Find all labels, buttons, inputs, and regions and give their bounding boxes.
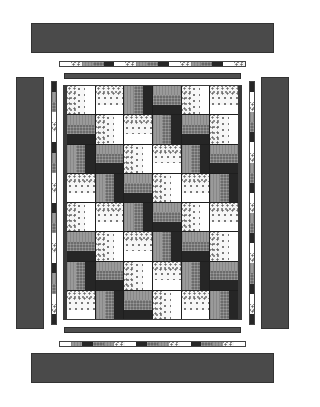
strip-segment-floral (52, 304, 56, 314)
fabric-strip-floral (182, 86, 191, 114)
fabric-strip-floral (124, 232, 152, 241)
fabric-strip-floral (96, 232, 105, 260)
fabric-strip-white (182, 310, 210, 319)
quilt-block-light-vertical (96, 232, 124, 260)
fabric-strip-gray (67, 232, 95, 241)
strip-segment-grid (201, 342, 212, 346)
strip-segment-black (191, 342, 202, 346)
fabric-strip-black (200, 262, 209, 290)
quilt-block-light-horizontal (153, 145, 181, 173)
bottom-border (31, 353, 274, 383)
fabric-strip-floral (182, 203, 191, 231)
strip-segment-gray (52, 92, 56, 102)
fabric-strip-dot (182, 183, 210, 192)
quilt-block-dark-vertical (153, 115, 181, 143)
fabric-strip-gray (210, 262, 238, 271)
fabric-strip-grid (96, 154, 124, 163)
strip-segment-gray (71, 342, 82, 346)
strip-segment-gray (191, 62, 202, 66)
strip-segment-gray (250, 213, 254, 223)
strip-segment-floral (250, 304, 254, 314)
fabric-strip-floral (124, 115, 152, 124)
fabric-strip-gray (182, 262, 191, 290)
fabric-strip-dot (76, 86, 85, 114)
fabric-strip-black (85, 262, 94, 290)
fabric-strip-dot (105, 232, 114, 260)
fabric-strip-dot (162, 291, 171, 319)
strip-segment-black (250, 284, 254, 294)
strip-segment-grid (147, 62, 158, 66)
fabric-strip-white (182, 193, 210, 202)
strip-segment-grid (201, 62, 212, 66)
fabric-strip-dot (191, 203, 200, 231)
fabric-strip-gray (67, 145, 76, 173)
quilt-block-light-vertical (96, 115, 124, 143)
fabric-strip-white (153, 163, 181, 172)
fabric-strip-floral (153, 174, 162, 202)
fabric-strip-black (182, 134, 210, 143)
quilt-block-dark-vertical (124, 86, 152, 114)
fabric-strip-floral (153, 262, 181, 271)
strip-segment-black (82, 342, 93, 346)
fabric-strip-floral (210, 115, 219, 143)
strip-segment-white (250, 294, 254, 304)
strip-segment-black (52, 314, 56, 324)
quilt-block-light-horizontal (67, 291, 95, 319)
strip-segment-gray (104, 342, 115, 346)
fabric-strip-gray (124, 174, 152, 183)
strip-segment-black (52, 203, 56, 213)
strip-segment-white (60, 342, 71, 346)
fabric-strip-gray (153, 86, 181, 95)
fabric-strip-floral (153, 291, 162, 319)
strip-segment-grid (52, 163, 56, 173)
fabric-strip-floral (96, 115, 105, 143)
strip-segment-black (250, 183, 254, 193)
fabric-strip-white (153, 280, 181, 289)
quilt-block-light-vertical (182, 86, 210, 114)
fabric-strip-grid (210, 271, 238, 280)
fabric-strip-floral (153, 145, 181, 154)
quilt-block-dark-vertical (182, 145, 210, 173)
fabric-strip-black (171, 232, 180, 260)
strip-segment-gray (82, 62, 93, 66)
fabric-strip-grid (191, 145, 200, 173)
right-pieced-strip (249, 81, 255, 325)
fabric-strip-grid (134, 203, 143, 231)
strip-segment-floral (180, 62, 191, 66)
fabric-strip-white (114, 232, 123, 260)
fabric-strip-dot (134, 145, 143, 173)
quilt-block-dark-horizontal (67, 232, 95, 260)
strip-segment-floral (250, 153, 254, 163)
fabric-strip-black (96, 280, 124, 289)
quilt-block-dark-horizontal (182, 115, 210, 143)
fabric-strip-white (171, 174, 180, 202)
fabric-strip-grid (67, 242, 95, 251)
strip-segment-grid (52, 223, 56, 233)
fabric-strip-gray (182, 115, 210, 124)
fabric-strip-floral (210, 203, 238, 212)
fabric-strip-dot (182, 300, 210, 309)
strip-segment-grid (250, 173, 254, 183)
quilt-block-dark-vertical (210, 174, 238, 202)
quilt-block-light-horizontal (124, 232, 152, 260)
top-border (31, 23, 274, 53)
quilt-block-dark-vertical (182, 262, 210, 290)
fabric-strip-floral (67, 174, 95, 183)
fabric-strip-dot (67, 183, 95, 192)
fabric-strip-grid (220, 174, 229, 202)
fabric-strip-gray (210, 174, 219, 202)
strip-segment-white (250, 243, 254, 253)
fabric-strip-white (210, 105, 238, 114)
strip-segment-gray (212, 342, 223, 346)
fabric-strip-floral (124, 262, 133, 290)
strip-segment-grid (250, 273, 254, 283)
quilt-block-light-vertical (210, 115, 238, 143)
fabric-strip-grid (67, 125, 95, 134)
strip-segment-gray (52, 213, 56, 223)
strip-segment-white (250, 142, 254, 152)
fabric-strip-gray (182, 145, 191, 173)
fabric-strip-floral (210, 232, 219, 260)
strip-segment-grid (250, 223, 254, 233)
strip-segment-floral (223, 342, 234, 346)
fabric-strip-dot (105, 115, 114, 143)
